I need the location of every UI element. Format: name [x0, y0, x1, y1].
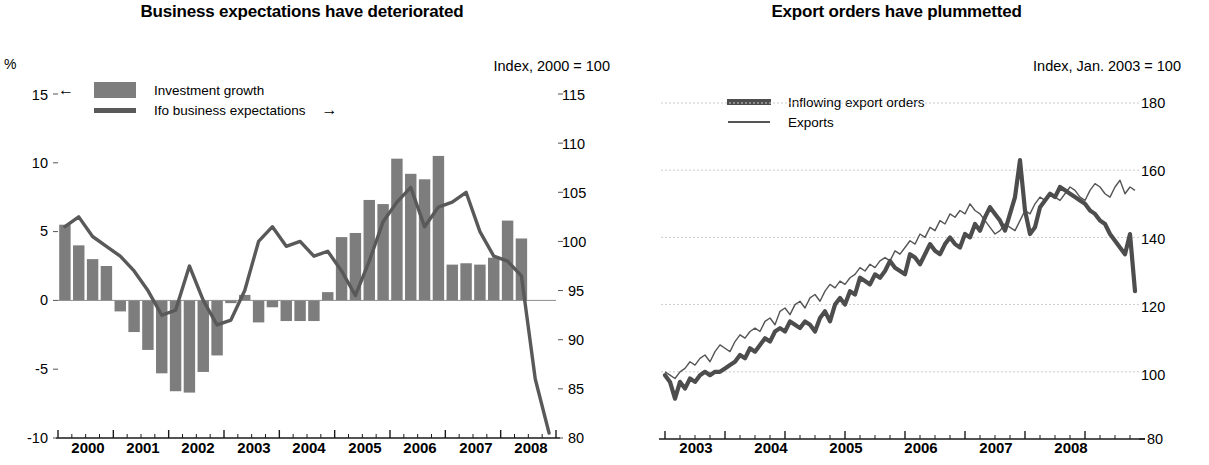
bar: [308, 300, 319, 321]
left-xtick-2007: 2007: [448, 439, 504, 456]
bar: [142, 300, 153, 350]
chart-panel-export-orders: Export orders have plummetted Index, Jan…: [620, 0, 1209, 465]
bar: [211, 300, 222, 355]
left-xtick-2002: 2002: [170, 439, 226, 456]
right-xtick-2004: 2004: [743, 439, 799, 456]
plot-area-left: [0, 0, 620, 465]
bar: [73, 245, 84, 300]
figure-container: Business expectations have deteriorated …: [0, 0, 1209, 465]
line-series-exports: [665, 180, 1135, 378]
bar: [128, 300, 139, 332]
bar: [253, 300, 264, 322]
line-series-inflowing-export-orders: [665, 160, 1135, 399]
bar: [101, 266, 112, 300]
left-xtick-2008: 2008: [503, 439, 559, 456]
bar: [267, 300, 278, 307]
right-xtick-2003: 2003: [668, 439, 724, 456]
bar-series-investment-growth: [59, 156, 527, 393]
bar: [488, 258, 499, 301]
right-xtick-2008: 2008: [1043, 439, 1099, 456]
bar: [460, 263, 471, 300]
bar: [391, 159, 402, 301]
left-xtick-2000: 2000: [60, 439, 116, 456]
bar: [294, 300, 305, 321]
bar: [281, 300, 292, 321]
left-xtick-2001: 2001: [115, 439, 171, 456]
bar: [322, 292, 333, 300]
bar: [198, 300, 209, 372]
bar: [115, 300, 126, 311]
bar: [447, 265, 458, 301]
chart-panel-business-expectations: Business expectations have deteriorated …: [0, 0, 620, 465]
right-xtick-2007: 2007: [968, 439, 1024, 456]
bar: [433, 156, 444, 300]
bar: [419, 179, 430, 300]
bar: [87, 259, 98, 300]
left-xtick-2006: 2006: [392, 439, 448, 456]
right-xtick-2005: 2005: [818, 439, 874, 456]
bar: [184, 300, 195, 392]
right-xtick-2006: 2006: [893, 439, 949, 456]
left-xtick-2005: 2005: [337, 439, 393, 456]
bar: [474, 265, 485, 301]
bar: [170, 300, 181, 391]
left-xtick-2003: 2003: [226, 439, 282, 456]
bar: [59, 225, 70, 301]
left-xtick-2004: 2004: [281, 439, 337, 456]
plot-area-right: [620, 0, 1209, 465]
